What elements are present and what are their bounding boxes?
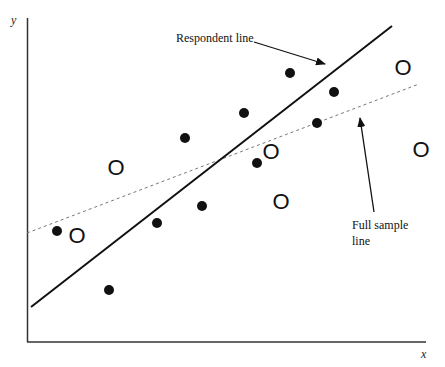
respondent-line-label: Respondent line (176, 31, 254, 45)
data-point (252, 158, 262, 168)
respondent-line (31, 26, 392, 307)
nonrespondent-marker: O (262, 139, 279, 164)
full-sample-line-label-2: line (352, 234, 370, 248)
respondent-line-arrow (254, 42, 325, 64)
x-axis-label: x (420, 347, 427, 361)
data-point (152, 218, 162, 228)
data-point (104, 285, 114, 295)
data-point (180, 133, 190, 143)
full-sample-line-arrow (360, 118, 374, 212)
nonrespondent-marker: O (68, 223, 85, 248)
nonrespondent-marker: O (394, 55, 411, 80)
full-sample-line-label: Full sample (352, 218, 408, 232)
y-axis-label: y (10, 13, 17, 27)
nonrespondent-marker: O (272, 189, 289, 214)
respondent-points (52, 68, 339, 295)
data-point (285, 68, 295, 78)
diagram: O O O O O O y x Respondent line Full sam… (0, 0, 445, 367)
nonrespondent-marker: O (107, 155, 124, 180)
data-point (197, 201, 207, 211)
data-point (239, 108, 249, 118)
nonrespondent-marker: O (412, 137, 429, 162)
diagram-canvas: O O O O O O y x Respondent line Full sam… (0, 0, 445, 367)
data-point (52, 226, 62, 236)
data-point (312, 118, 322, 128)
data-point (329, 87, 339, 97)
